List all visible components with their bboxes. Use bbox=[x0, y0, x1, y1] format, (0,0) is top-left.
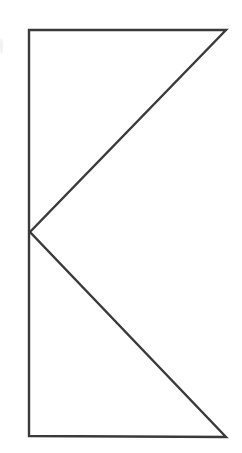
k-shape-line-figure: K-shaped geometric line figure Closed po… bbox=[0, 0, 242, 453]
k-shape-outline-path bbox=[29, 30, 226, 437]
figure-canvas: K-shaped geometric line figure Closed po… bbox=[0, 0, 242, 453]
